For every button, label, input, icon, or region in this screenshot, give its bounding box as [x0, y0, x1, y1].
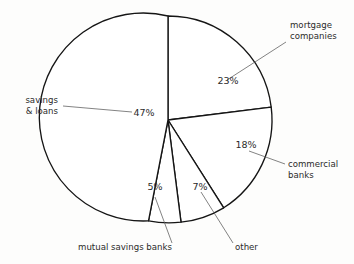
- category-label-mortgage-companies-line2: companies: [290, 31, 337, 41]
- value-label-mutual-savings-banks: 5%: [147, 181, 162, 192]
- category-label-other: other: [235, 242, 258, 252]
- value-label-other: 7%: [192, 181, 207, 192]
- category-label-commercial-banks-line2: banks: [288, 170, 314, 180]
- value-label-mortgage-companies: 23%: [217, 75, 238, 86]
- category-label-mortgage-companies-line1: mortgage: [290, 20, 332, 30]
- value-label-savings-and-loans: 47%: [133, 107, 154, 118]
- category-label-mutual-savings-banks: mutual savings banks: [78, 242, 172, 252]
- pie-slice-mortgage-companies[interactable]: [168, 16, 271, 120]
- pie-chart-figure: 23% 18% 7% 5% 47% mortgage companies com…: [0, 0, 354, 264]
- category-label-savings-and-loans-line1: savings: [25, 95, 58, 105]
- value-label-commercial-banks: 18%: [235, 139, 256, 150]
- category-label-savings-and-loans-line2: & loans: [26, 106, 59, 116]
- category-label-commercial-banks-line1: commercial: [288, 159, 338, 169]
- pie-chart-svg: 23% 18% 7% 5% 47% mortgage companies com…: [0, 0, 354, 264]
